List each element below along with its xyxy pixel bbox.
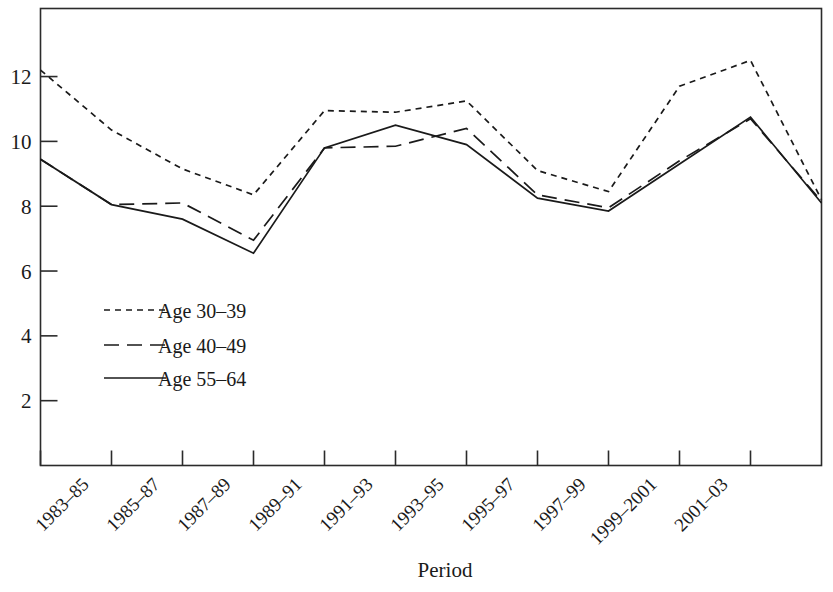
- legend-label-3: Age 55–64: [158, 368, 246, 391]
- series-line-age-40-49: [41, 119, 822, 241]
- line-chart-figure: 24681012 1983–851985–871987–891989–91199…: [0, 0, 833, 592]
- series-line-age-30-39: [41, 60, 822, 199]
- chart-legend: Age 30–39Age 40–49Age 55–64: [104, 300, 246, 391]
- series-line-age-55-64: [41, 117, 822, 253]
- x-axis-tick-labels: 1983–851985–871987–891989–911991–931993–…: [31, 473, 732, 548]
- x-axis-title: Period: [418, 558, 473, 582]
- legend-label-2: Age 40–49: [158, 335, 246, 358]
- y-tick-label: 4: [21, 324, 32, 348]
- y-tick-label: 6: [21, 260, 32, 284]
- x-tick-label: 1983–85: [31, 473, 93, 535]
- x-axis-ticks: [41, 451, 751, 466]
- data-series-group: [41, 60, 822, 253]
- x-tick-label: 1997–99: [528, 473, 590, 535]
- x-tick-label: 1995–97: [457, 473, 519, 535]
- legend-label-1: Age 30–39: [158, 300, 246, 323]
- y-tick-label: 2: [21, 389, 32, 413]
- x-tick-label: 1999–2001: [586, 473, 661, 548]
- x-tick-label: 1993–95: [386, 473, 448, 535]
- x-tick-label: 2001–03: [670, 473, 732, 535]
- y-axis-ticks: 24681012: [11, 65, 58, 413]
- chart-canvas: 24681012 1983–851985–871987–891989–91199…: [0, 0, 833, 592]
- y-tick-label: 8: [21, 195, 32, 219]
- y-tick-label: 12: [11, 65, 32, 89]
- x-tick-label: 1989–91: [244, 473, 306, 535]
- x-tick-label: 1987–89: [173, 473, 235, 535]
- x-tick-label: 1991–93: [315, 473, 377, 535]
- x-tick-label: 1985–87: [102, 473, 164, 535]
- y-tick-label: 10: [11, 130, 32, 154]
